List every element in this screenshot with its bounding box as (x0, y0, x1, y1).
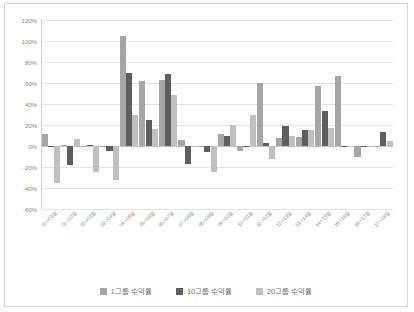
bar[interactable] (354, 146, 360, 157)
bar[interactable] (100, 146, 106, 147)
bar[interactable] (113, 146, 119, 180)
bar-group (276, 20, 296, 209)
bar[interactable] (165, 74, 171, 146)
x-axis-tick-label: 05->06월 (137, 209, 156, 228)
bar-group (61, 20, 81, 209)
bar[interactable] (276, 138, 282, 146)
bar[interactable] (308, 130, 314, 146)
legend-label: 10그룹 수익률 (187, 286, 232, 296)
bar[interactable] (387, 141, 393, 146)
y-axis-tick-label: 60% (25, 80, 37, 87)
bar[interactable] (211, 146, 217, 172)
bar-group (315, 20, 335, 209)
x-axis-labels: 00->01월01->02월02->03월03->04월04->05월05->0… (41, 209, 393, 249)
x-axis-tick-label: 15->16월 (332, 209, 351, 228)
bar[interactable] (204, 146, 210, 152)
y-axis-tick-label: 120% (22, 17, 37, 24)
legend-label: 20그룹 수익률 (267, 286, 312, 296)
x-axis-tick-label: 02->03월 (78, 209, 97, 228)
bar[interactable] (54, 146, 60, 183)
x-axis-tick-label: 08->09월 (195, 209, 214, 228)
bar-group (41, 20, 61, 209)
bar[interactable] (178, 140, 184, 146)
bar[interactable] (322, 111, 328, 146)
x-axis-tick-label: 13->14월 (293, 209, 312, 228)
bar[interactable] (132, 115, 138, 146)
plot-area: 120%100%80%60%40%20%0%-20%-40%-60% (41, 20, 393, 209)
bar[interactable] (224, 136, 230, 146)
x-axis-tick-label: 07->08월 (176, 209, 195, 228)
bar[interactable] (61, 145, 67, 146)
bar[interactable] (237, 146, 243, 151)
bar[interactable] (302, 130, 308, 146)
legend-item[interactable]: 1그룹 수익률 (100, 286, 152, 296)
legend-item[interactable]: 10그룹 수익률 (176, 286, 232, 296)
x-axis-tick-label: 06->07월 (156, 209, 175, 228)
bar-group (334, 20, 354, 209)
bar-group (295, 20, 315, 209)
x-axis-tick-label: 17->18월 (371, 209, 390, 228)
bar[interactable] (282, 126, 288, 146)
bar[interactable] (380, 132, 386, 146)
bar[interactable] (263, 143, 269, 146)
x-axis-tick-label: 12->13월 (274, 209, 293, 228)
bar-groups (41, 20, 393, 209)
bar-group (256, 20, 276, 209)
y-axis-tick-label: 40% (25, 101, 37, 108)
chart-container: 120%100%80%60%40%20%0%-20%-40%-60% 00->0… (4, 3, 408, 307)
bar-group (217, 20, 237, 209)
y-axis-tick-label: 100% (22, 38, 37, 45)
bar-group (237, 20, 257, 209)
legend-item[interactable]: 20그룹 수익률 (256, 286, 312, 296)
y-axis-tick-label: -60% (23, 206, 37, 213)
bar[interactable] (67, 146, 73, 165)
bar[interactable] (159, 80, 165, 146)
x-axis-tick-label: 01->02월 (59, 209, 78, 228)
bar-group (80, 20, 100, 209)
x-axis-tick-label: 00->01월 (39, 209, 58, 228)
bar[interactable] (48, 146, 54, 147)
bar-group (373, 20, 393, 209)
legend-swatch (100, 288, 107, 295)
bar[interactable] (341, 146, 347, 147)
bar-group (178, 20, 198, 209)
x-axis-tick-label: 11->12월 (254, 209, 273, 228)
y-axis-tick-label: 20% (25, 122, 37, 129)
y-axis-tick-label: -40% (23, 185, 37, 192)
legend-label: 1그룹 수익률 (111, 286, 152, 296)
bar[interactable] (139, 81, 145, 146)
bar[interactable] (106, 146, 112, 151)
x-axis-tick-label: 10->11월 (235, 209, 254, 228)
legend-swatch (176, 288, 183, 295)
x-axis-tick-label: 04->05월 (117, 209, 136, 228)
bar[interactable] (171, 95, 177, 146)
bar[interactable] (230, 125, 236, 146)
bar[interactable] (257, 83, 263, 146)
chart-legend: 1그룹 수익률10그룹 수익률20그룹 수익률 (5, 286, 407, 296)
bar-group (119, 20, 139, 209)
bar[interactable] (328, 128, 334, 146)
bar[interactable] (191, 146, 197, 147)
bar[interactable] (250, 115, 256, 146)
bar[interactable] (296, 137, 302, 146)
bar[interactable] (120, 36, 126, 146)
bar[interactable] (335, 76, 341, 146)
legend-swatch (256, 288, 263, 295)
bar[interactable] (74, 139, 80, 146)
bar[interactable] (289, 136, 295, 146)
y-axis-tick-label: -20% (23, 164, 37, 171)
bar[interactable] (269, 146, 275, 159)
bar[interactable] (185, 146, 191, 164)
bar[interactable] (218, 134, 224, 146)
bar-group (100, 20, 120, 209)
bar[interactable] (87, 145, 93, 146)
y-axis-tick-label: 0% (28, 143, 37, 150)
bar[interactable] (126, 73, 132, 146)
bar[interactable] (152, 129, 158, 146)
x-axis-tick-label: 03->04월 (98, 209, 117, 228)
bar[interactable] (42, 134, 48, 146)
bar[interactable] (146, 120, 152, 146)
x-axis-tick-label: 14->15월 (313, 209, 332, 228)
bar[interactable] (93, 146, 99, 172)
bar[interactable] (315, 86, 321, 146)
